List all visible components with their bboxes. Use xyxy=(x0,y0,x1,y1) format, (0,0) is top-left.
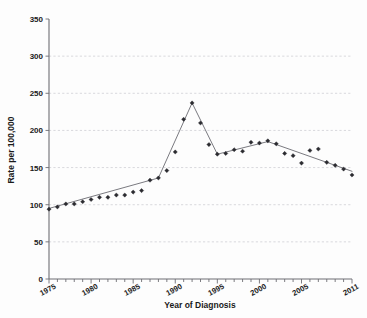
data-point xyxy=(72,202,76,206)
x-tick-label-1995: 1995 xyxy=(207,281,227,297)
data-point xyxy=(81,200,85,204)
data-point xyxy=(173,150,177,154)
x-tick-label-1985: 1985 xyxy=(122,281,142,297)
y-tick-label-100: 100 xyxy=(30,201,44,210)
x-tick-label-2000: 2000 xyxy=(249,282,268,298)
data-point xyxy=(350,173,354,177)
rate-per-100000-scatter-chart: 050100150200250300350 197519801985199019… xyxy=(0,0,367,318)
y-tick-label-300: 300 xyxy=(30,52,44,61)
y-tick-label-350: 350 xyxy=(30,15,44,24)
y-axis-ticks: 050100150200250300350 xyxy=(30,15,49,284)
axis-lines xyxy=(49,19,352,279)
y-tick-label-150: 150 xyxy=(30,164,44,173)
x-tick-label-1980: 1980 xyxy=(80,282,99,298)
y-tick-label-0: 0 xyxy=(39,275,44,284)
data-point xyxy=(106,195,110,199)
chart-container: 050100150200250300350 197519801985199019… xyxy=(0,0,367,318)
data-point xyxy=(156,176,160,180)
y-tick-label-50: 50 xyxy=(34,238,43,247)
fitted-trend-line xyxy=(49,103,352,208)
data-point xyxy=(283,151,287,155)
data-point xyxy=(190,101,194,105)
x-axis-tick-labels: 19751980198519901995200020052011 xyxy=(38,281,361,297)
data-point xyxy=(123,193,127,197)
data-point xyxy=(308,148,312,152)
data-point xyxy=(165,168,169,172)
y-axis-title: Rate per 100,000 xyxy=(6,116,16,183)
x-tick-label-2005: 2005 xyxy=(291,281,311,297)
x-tick-label-1990: 1990 xyxy=(165,282,184,298)
data-point xyxy=(232,148,236,152)
data-point xyxy=(249,140,253,144)
data-point xyxy=(325,160,329,164)
data-point xyxy=(97,195,101,199)
data-point xyxy=(131,190,135,194)
data-point xyxy=(215,152,219,156)
data-point xyxy=(64,202,68,206)
data-point xyxy=(333,163,337,167)
x-axis-title: Year of Diagnosis xyxy=(164,300,236,310)
data-point xyxy=(198,121,202,125)
data-point xyxy=(89,197,93,201)
x-tick-label-2011: 2011 xyxy=(341,282,360,298)
gridlines xyxy=(49,56,352,242)
y-tick-label-250: 250 xyxy=(30,89,44,98)
data-point xyxy=(207,142,211,146)
data-point xyxy=(148,178,152,182)
data-point xyxy=(139,189,143,193)
trend-line-group xyxy=(49,103,352,208)
y-tick-label-200: 200 xyxy=(30,126,44,135)
data-point xyxy=(299,161,303,165)
data-point xyxy=(240,149,244,153)
data-point xyxy=(114,193,118,197)
data-point xyxy=(291,154,295,158)
data-point xyxy=(316,147,320,151)
